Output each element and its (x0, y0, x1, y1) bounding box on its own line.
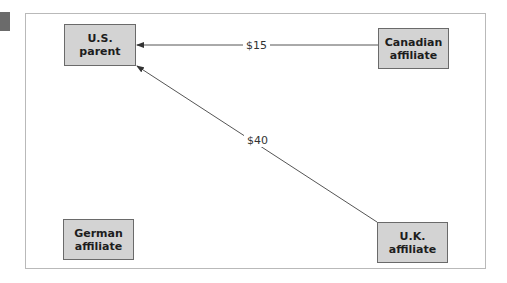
node-us-parent: U.S. parent (64, 24, 136, 66)
flow-label-uk: $40 (244, 134, 271, 147)
node-uk-affiliate: U.K. affiliate (377, 222, 448, 263)
node-german-affiliate: German affiliate (63, 219, 134, 260)
node-label: Canadian affiliate (385, 36, 443, 62)
node-canadian-affiliate: Canadian affiliate (378, 28, 449, 69)
flow-label-canadian: $15 (243, 39, 270, 52)
node-label: U.K. affiliate (389, 230, 436, 256)
node-label: German affiliate (74, 227, 123, 253)
node-label: U.S. parent (79, 32, 120, 58)
